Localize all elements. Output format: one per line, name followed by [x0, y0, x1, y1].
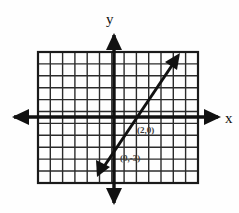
- x-axis-label: x: [225, 110, 233, 126]
- x-axis-arrow-right: [204, 109, 221, 125]
- y-axis-label: y: [106, 11, 114, 27]
- point-label-y-intercept: (0,-3): [120, 153, 140, 163]
- x-axis-arrow-left: [12, 109, 29, 125]
- y-axis-arrow-up: [106, 33, 122, 50]
- graph-figure: y x (2,0) (0,-3): [0, 0, 239, 213]
- y-axis-arrow-down: [106, 188, 122, 205]
- point-label-x-intercept: (2,0): [137, 125, 154, 135]
- line-arrow-upper-right: [165, 53, 180, 70]
- coordinate-plane-svg: y x (2,0) (0,-3): [0, 0, 239, 213]
- y-axis: [106, 33, 122, 205]
